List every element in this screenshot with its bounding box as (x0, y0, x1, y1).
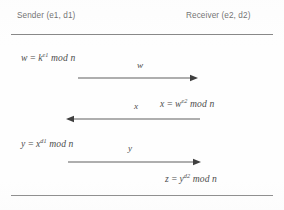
equation-x: x = we2 mod n (160, 98, 214, 109)
message-arrow-y (68, 156, 201, 168)
equation-y-exponent: d1 (40, 137, 46, 144)
equation-y-modulus: n (69, 138, 74, 149)
equation-w: w = ke1 mod n (21, 52, 75, 63)
equation-z: z = yd2 mod n (165, 173, 217, 184)
equation-x-operator: mod (190, 98, 207, 109)
equation-x-rel: = (166, 98, 173, 109)
footer-divider-rule (11, 195, 273, 196)
equation-w-lhs: w (21, 52, 28, 63)
equation-z-modulus: n (212, 173, 217, 184)
equation-z-operator: mod (193, 173, 210, 184)
equation-w-modulus: n (70, 52, 75, 63)
protocol-diagram: Sender (e1, d1) Receiver (e2, d2) w = ke… (0, 0, 284, 210)
equation-x-modulus: n (209, 98, 214, 109)
sender-column-label: Sender (e1, d1) (17, 11, 75, 20)
equation-z-exponent: d2 (184, 172, 190, 179)
message-label-y: y (128, 143, 132, 153)
receiver-column-label: Receiver (e2, d2) (186, 11, 251, 20)
party-header-row: Sender (e1, d1) Receiver (e2, d2) (0, 11, 284, 27)
message-arrow-x (66, 113, 200, 125)
equation-w-exponent: e1 (43, 51, 49, 58)
equation-w-operator: mod (51, 52, 68, 63)
header-divider-rule (11, 34, 273, 35)
equation-x-exponent: e2 (182, 97, 188, 104)
scan-texture-overlay (0, 0, 284, 210)
equation-y-rel: = (27, 138, 34, 149)
equation-y-lhs: y (21, 138, 25, 149)
equation-x-lhs: x (160, 98, 164, 109)
message-label-x: x (134, 101, 138, 111)
equation-w-rel: = (30, 52, 37, 63)
equation-z-rel: = (171, 173, 178, 184)
message-label-w: w (137, 60, 143, 70)
message-arrow-w (78, 72, 198, 84)
equation-z-lhs: z (165, 173, 169, 184)
equation-y-operator: mod (49, 138, 66, 149)
equation-y: y = xd1 mod n (21, 138, 73, 149)
